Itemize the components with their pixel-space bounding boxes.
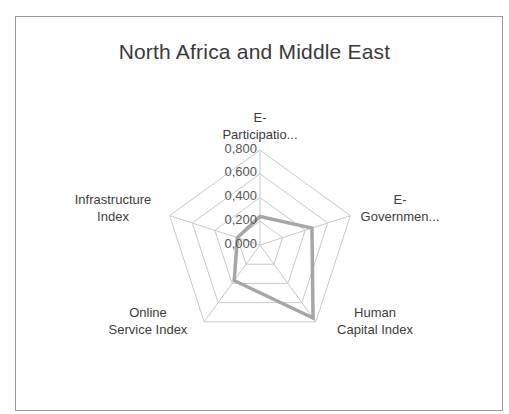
axis-label-infrastructure: Infrastructure Index [58,191,168,225]
axis-label-human-capital: Human Capital Index [320,304,430,338]
axis-label-online-service: Online Service Index [93,304,203,338]
tick-label-0-6: 0,600 [207,164,257,179]
tick-label-0-4: 0,400 [207,188,257,203]
tick-label-0-8: 0,800 [207,141,257,156]
tick-label-0-0: 0,000 [207,236,257,251]
tick-label-0-2: 0,200 [207,212,257,227]
axis-label-e-participation: E- Participatio... [210,109,310,143]
axis-label-e-government: E- Governmen... [350,191,450,225]
